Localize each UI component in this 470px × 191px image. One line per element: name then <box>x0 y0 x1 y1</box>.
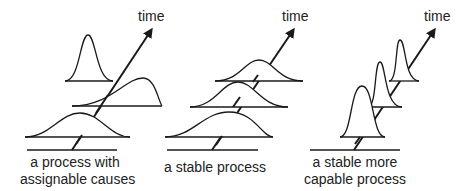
caption-line-2: assignable causes <box>20 171 130 188</box>
panel-assignable-causes <box>25 32 162 150</box>
caption-line-1: a stable process <box>160 159 270 176</box>
caption-line-1: a process with <box>20 154 130 171</box>
caption-assignable-causes: a process with assignable causes <box>20 154 130 188</box>
distribution-curve-3-narrow <box>65 35 113 81</box>
caption-line-2: capable process <box>300 171 410 188</box>
distribution-curve-3 <box>215 60 303 81</box>
time-axis-label-1: time <box>138 8 164 24</box>
time-axis-label-3: time <box>424 8 450 24</box>
panel-capable-process <box>310 32 433 150</box>
panel-stable-process <box>165 32 303 150</box>
time-axis-label-2: time <box>282 8 308 24</box>
distribution-curve-1 <box>165 112 273 137</box>
distribution-curve-1 <box>25 113 130 137</box>
distribution-curve-2 <box>190 82 288 107</box>
caption-line-1: a stable more <box>300 154 410 171</box>
caption-capable-process: a stable more capable process <box>300 154 410 188</box>
caption-stable-process: a stable process <box>160 159 270 176</box>
